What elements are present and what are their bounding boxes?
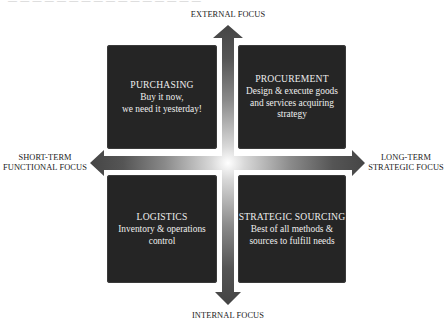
quadrant-procurement: PROCUREMENT Design & execute goods and s… [238,45,346,149]
quadrant-purchasing: PURCHASING Buy it now, we need it yester… [107,45,217,149]
axis-label-line: LONG-TERM [365,153,447,163]
quadrant-desc: sources to fulfill needs [249,236,334,248]
axis-label-external-focus: EXTERNAL FOCUS [178,10,278,20]
axis-label-line: STRATEGIC FOCUS [365,163,447,173]
quadrant-desc: we need it yesterday! [122,104,202,116]
quadrant-title: PURCHASING [130,79,193,91]
quadrant-desc: and services acquiring [250,98,334,110]
quadrant-strategic-sourcing: STRATEGIC SOURCING Best of all methods &… [238,175,346,283]
axis-label-long-term: LONG-TERM STRATEGIC FOCUS [365,153,447,173]
quadrant-desc: control [149,236,176,248]
quadrant-desc: Best of all methods & [251,224,333,236]
quadrant-title: PROCUREMENT [255,73,329,85]
quadrant-logistics: LOGISTICS Inventory & operations control [107,175,217,283]
quadrant-desc: Design & execute goods [246,86,338,98]
axis-label-line: FUNCTIONAL FOCUS [0,163,90,173]
axis-label-line: SHORT-TERM [0,153,90,163]
quadrant-desc: Inventory & operations [118,224,205,236]
axis-label-internal-focus: INTERNAL FOCUS [178,311,278,321]
quadrant-desc: Buy it now, [140,92,183,104]
axis-label-short-term: SHORT-TERM FUNCTIONAL FOCUS [0,153,90,173]
quadrant-desc: strategy [277,109,307,121]
quadrant-title: STRATEGIC SOURCING [239,211,346,223]
quadrant-title: LOGISTICS [137,211,188,223]
